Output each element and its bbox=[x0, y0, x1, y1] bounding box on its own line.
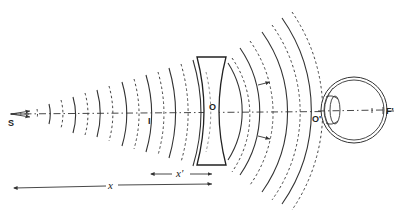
label-source-s: S bbox=[8, 118, 14, 128]
source-rays bbox=[11, 111, 30, 117]
label-lens-center-o: O bbox=[209, 102, 216, 112]
optics-diagram: S I O O' F' x' x bbox=[0, 0, 400, 218]
label-eye-center-o-prime: O' bbox=[312, 114, 321, 124]
distance-x: x bbox=[14, 179, 212, 191]
label-x-prime: x' bbox=[175, 167, 184, 179]
eye-diagram bbox=[318, 77, 387, 143]
label-focus-f-prime: F' bbox=[386, 106, 394, 116]
label-virtual-image-i: I bbox=[148, 116, 151, 126]
distance-x-prime: x' bbox=[151, 167, 212, 179]
label-x: x bbox=[107, 179, 113, 191]
refracted-wavefronts bbox=[228, 12, 323, 210]
